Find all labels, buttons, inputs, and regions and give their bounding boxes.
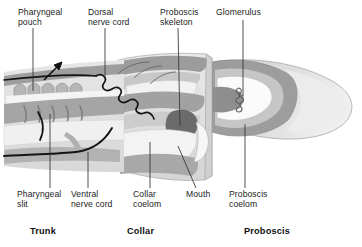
label-ventral-nerve-cord: Ventral nerve cord <box>71 190 112 209</box>
anatomy-diagram <box>0 0 362 247</box>
label-pharyngeal-slit: Pharyngeal slit <box>17 190 61 209</box>
label-proboscis-skeleton: Proboscis skeleton <box>160 8 199 27</box>
figure-canvas: Pharyngeal pouch Dorsal nerve cord Probo… <box>0 0 362 247</box>
pharyngeal-pouch <box>14 84 26 96</box>
region-label-collar: Collar <box>127 226 154 236</box>
label-dorsal-nerve-cord: Dorsal nerve cord <box>88 8 129 27</box>
label-mouth: Mouth <box>186 190 210 200</box>
label-proboscis-coelom: Proboscis coelom <box>229 190 268 209</box>
collar-group <box>116 53 212 180</box>
collar-posterior-edge <box>205 54 212 180</box>
region-label-proboscis: Proboscis <box>244 226 290 236</box>
label-collar-coelom: Collar coelom <box>133 190 161 209</box>
proboscis-group <box>208 60 352 139</box>
region-label-trunk: Trunk <box>30 226 56 236</box>
label-pharyngeal-pouch: Pharyngeal pouch <box>18 8 62 27</box>
label-glomerulus: Glomerulus <box>216 8 261 18</box>
